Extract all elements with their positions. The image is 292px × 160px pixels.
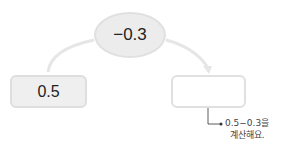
- start-value-box: 0.5: [10, 75, 87, 108]
- hint-line-2: 계산해요.: [225, 129, 269, 141]
- connector-start-to-operation: [48, 40, 94, 72]
- operation-ellipse: −0.3: [94, 12, 166, 58]
- result-answer-box[interactable]: [171, 75, 246, 108]
- hint-line-1: 0.5−0.3을: [225, 117, 269, 129]
- hint-note: 0.5−0.3을 계산해요.: [225, 117, 269, 141]
- arrowhead-icon: [203, 66, 212, 74]
- connector-operation-to-result: [166, 40, 208, 68]
- start-value-label: 0.5: [37, 83, 59, 101]
- operation-label: −0.3: [113, 25, 147, 45]
- hint-dot-icon: [220, 123, 223, 126]
